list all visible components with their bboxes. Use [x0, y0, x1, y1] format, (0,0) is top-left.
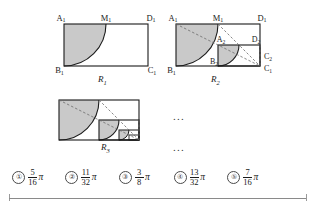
panel-3-svg	[57, 98, 161, 142]
choice-1[interactable]: ① 5 16 π	[12, 168, 43, 187]
vertex-label-B1: B1	[167, 65, 176, 76]
choice-4-fraction: 13 32	[190, 168, 199, 187]
vertex-label-D2: D2	[252, 35, 261, 45]
choice-3-denominator: 8	[137, 178, 141, 187]
choice-4-number: ④	[174, 171, 187, 184]
choice-5-denominator: 16	[243, 178, 252, 187]
rule-tick-right	[306, 194, 307, 201]
choice-1-denominator: 16	[28, 178, 37, 187]
figure-panel-1: A1 M1 D1 B1 C1	[56, 14, 160, 74]
choice-5-fraction: 7 16	[243, 168, 252, 187]
answer-choices: ① 5 16 π ② 11 32 π ③ 3 8 π	[0, 163, 315, 191]
choice-1-symbol: π	[39, 172, 44, 182]
vertex-label-D1: D1	[146, 13, 155, 24]
vertex-label-A1: A1	[56, 13, 65, 24]
figure-stage: A1 M1 D1 B1 C1 R1 A1 M	[0, 0, 315, 208]
choice-3[interactable]: ③ 3 8 π	[119, 168, 150, 187]
vertex-label-C2: C2	[264, 52, 272, 62]
vertex-label-B2: B2	[210, 57, 218, 67]
choice-3-fraction: 3 8	[135, 168, 144, 187]
panel-3-caption: R3	[101, 142, 110, 154]
bottom-divider	[9, 198, 307, 199]
choice-4-numerator: 13	[190, 168, 199, 177]
vertex-label-C1: C1	[148, 65, 157, 76]
choice-5[interactable]: ⑤ 7 16 π	[227, 168, 258, 187]
shaded-quarter-disc-1	[59, 100, 99, 140]
choice-1-number: ①	[12, 171, 25, 184]
choice-4[interactable]: ④ 13 32 π	[174, 168, 205, 187]
ellipsis-below: ...	[173, 141, 185, 153]
vertex-label-A2: A2	[217, 35, 226, 45]
choice-2-number: ②	[65, 171, 78, 184]
ellipsis-right: ...	[173, 110, 185, 122]
vertex-label-M1: M1	[213, 13, 224, 24]
panel-2-caption: R2	[211, 74, 220, 86]
panel-1-svg: A1 M1 D1 B1 C1	[56, 14, 160, 74]
vertex-label-C1: C1	[264, 64, 272, 74]
figure-panel-3	[57, 98, 161, 142]
choice-2-symbol: π	[92, 172, 97, 182]
choice-3-numerator: 3	[137, 168, 141, 177]
choice-3-symbol: π	[145, 172, 150, 182]
panel-1-caption: R1	[98, 74, 107, 86]
vertex-label-B1: B1	[55, 65, 64, 76]
choice-2-numerator: 11	[82, 168, 90, 177]
vertex-label-M1: M1	[101, 13, 112, 24]
choice-4-symbol: π	[200, 172, 205, 182]
shaded-quarter-disc	[64, 24, 106, 66]
figure-panel-2: A1 M1 D1 B1 C1 A2 B2 D2 C2	[168, 14, 278, 74]
panel-2-svg: A1 M1 D1 B1 C1 A2 B2 D2 C2	[168, 14, 278, 74]
choice-3-number: ③	[119, 171, 132, 184]
choice-1-numerator: 5	[30, 168, 34, 177]
choice-5-numerator: 7	[245, 168, 249, 177]
choice-4-denominator: 32	[190, 178, 199, 187]
choice-2-denominator: 32	[82, 178, 91, 187]
choice-1-fraction: 5 16	[28, 168, 37, 187]
choice-2-fraction: 11 32	[81, 168, 90, 187]
choice-5-symbol: π	[254, 172, 259, 182]
choice-5-number: ⑤	[227, 171, 240, 184]
vertex-label-D1: D1	[257, 13, 266, 24]
choice-2[interactable]: ② 11 32 π	[65, 168, 96, 187]
vertex-label-A1: A1	[168, 13, 177, 24]
